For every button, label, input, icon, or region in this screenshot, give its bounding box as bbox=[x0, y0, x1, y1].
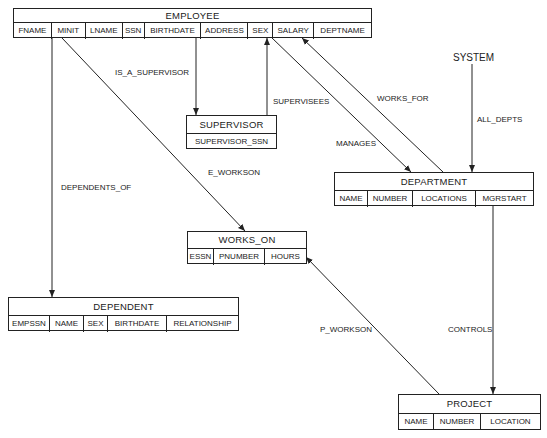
label-supervisees: SUPERVISEES bbox=[273, 97, 329, 106]
table-fields: FNAME MINIT LNAME SSN BIRTHDATE ADDRESS … bbox=[14, 23, 371, 39]
field-supervisor-ssn[interactable]: SUPERVISOR_SSN bbox=[187, 134, 276, 150]
field-sex[interactable]: SEX bbox=[248, 23, 273, 39]
label-manages: MANAGES bbox=[336, 139, 376, 148]
field-number[interactable]: NUMBER bbox=[434, 414, 481, 430]
table-fields: ESSN PNUMBER HOURS bbox=[188, 249, 306, 265]
table-fields: NAME NUMBER LOCATIONS MGRSTART bbox=[335, 191, 533, 207]
field-lname[interactable]: LNAME bbox=[86, 23, 123, 39]
table-works-on[interactable]: WORKS_ON ESSN PNUMBER HOURS bbox=[187, 231, 307, 264]
field-relationship[interactable]: RELATIONSHIP bbox=[167, 316, 238, 332]
table-fields: EMPSSN NAME SEX BIRTHDATE RELATIONSHIP bbox=[9, 316, 238, 332]
table-title: DEPARTMENT bbox=[335, 173, 533, 191]
field-mgrstart[interactable]: MGRSTART bbox=[476, 191, 533, 207]
table-department[interactable]: DEPARTMENT NAME NUMBER LOCATIONS MGRSTAR… bbox=[334, 172, 534, 206]
field-pnumber[interactable]: PNUMBER bbox=[214, 249, 265, 265]
table-project[interactable]: PROJECT NAME NUMBER LOCATION bbox=[398, 394, 541, 430]
table-fields: NAME NUMBER LOCATION bbox=[399, 414, 540, 430]
table-title: SUPERVISOR bbox=[187, 116, 276, 134]
field-sex[interactable]: SEX bbox=[84, 316, 108, 332]
field-birthdate[interactable]: BIRTHDATE bbox=[108, 316, 167, 332]
field-fname[interactable]: FNAME bbox=[14, 23, 52, 39]
field-salary[interactable]: SALARY bbox=[273, 23, 314, 39]
field-minit[interactable]: MINIT bbox=[52, 23, 86, 39]
field-number[interactable]: NUMBER bbox=[368, 191, 413, 207]
field-name[interactable]: NAME bbox=[50, 316, 84, 332]
label-works-for: WORKS_FOR bbox=[377, 94, 429, 103]
label-all-depts: ALL_DEPTS bbox=[477, 115, 522, 124]
field-ssn[interactable]: SSN bbox=[123, 23, 145, 39]
table-fields: SUPERVISOR_SSN bbox=[187, 134, 276, 150]
table-employee[interactable]: EMPLOYEE FNAME MINIT LNAME SSN BIRTHDATE… bbox=[13, 8, 372, 38]
table-dependent[interactable]: DEPENDENT EMPSSN NAME SEX BIRTHDATE RELA… bbox=[8, 297, 239, 331]
label-p-workson: P_WORKSON bbox=[320, 325, 372, 334]
label-e-workson: E_WORKSON bbox=[208, 168, 260, 177]
label-controls: CONTROLS bbox=[448, 325, 492, 334]
field-essn[interactable]: ESSN bbox=[188, 249, 214, 265]
field-location[interactable]: LOCATION bbox=[481, 414, 540, 430]
label-is-a-supervisor: IS_A_SUPERVISOR bbox=[115, 68, 189, 77]
table-title: WORKS_ON bbox=[188, 232, 306, 249]
table-supervisor[interactable]: SUPERVISOR SUPERVISOR_SSN bbox=[186, 115, 277, 149]
table-title: DEPENDENT bbox=[9, 298, 238, 316]
relationship-edges bbox=[0, 0, 547, 438]
field-birthdate[interactable]: BIRTHDATE bbox=[145, 23, 202, 39]
field-empssn[interactable]: EMPSSN bbox=[9, 316, 50, 332]
system-node: SYSTEM bbox=[453, 52, 494, 63]
table-title: PROJECT bbox=[399, 395, 540, 414]
field-hours[interactable]: HOURS bbox=[265, 249, 306, 265]
field-deptname[interactable]: DEPTNAME bbox=[314, 23, 371, 39]
schema-diagram: EMPLOYEE FNAME MINIT LNAME SSN BIRTHDATE… bbox=[0, 0, 547, 438]
field-address[interactable]: ADDRESS bbox=[201, 23, 248, 39]
field-name[interactable]: NAME bbox=[399, 414, 434, 430]
field-name[interactable]: NAME bbox=[335, 191, 368, 207]
label-dependents-of: DEPENDENTS_OF bbox=[61, 183, 131, 192]
table-title: EMPLOYEE bbox=[14, 9, 371, 23]
field-locations[interactable]: LOCATIONS bbox=[413, 191, 476, 207]
